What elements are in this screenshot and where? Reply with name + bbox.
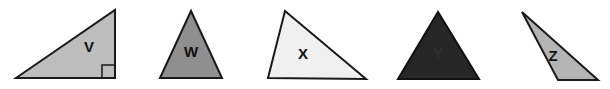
triangle-w-label: W [184,43,199,60]
triangle-v-shape [16,10,115,78]
triangle-y: Y [398,12,479,79]
triangle-x: X [268,11,366,79]
triangle-z-label: Z [548,47,557,64]
triangle-x-label: X [298,45,308,62]
triangle-v-label: V [84,38,94,55]
triangles-diagram: V W X Y Z [0,0,610,89]
triangle-x-shape [268,11,366,79]
triangle-y-label: Y [433,44,443,61]
triangle-z-shape [522,12,598,80]
triangle-w: W [160,11,222,78]
triangle-v: V [16,10,115,78]
triangle-z: Z [522,12,598,80]
